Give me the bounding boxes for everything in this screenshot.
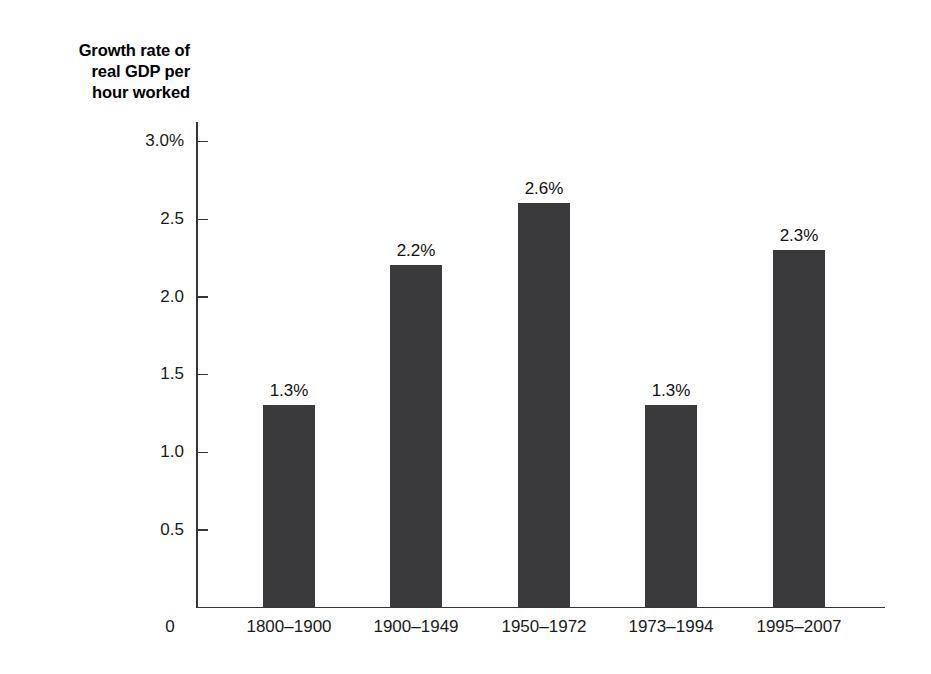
y-axis-title-line-2: real GDP per	[30, 61, 190, 82]
y-tick-label-2.0-wrap: 2.0	[34, 287, 184, 307]
bar-value-label-4: 1.3%	[619, 381, 723, 401]
y-tick-label-2.5-wrap: 2.5	[34, 209, 184, 229]
y-tick-label-1.5-wrap: 1.5	[34, 364, 184, 384]
bar-chart: Growth rate of real GDP per hour worked …	[0, 0, 931, 674]
y-tick-label-1.0-wrap: 1.0	[34, 442, 184, 462]
bar-value-label-1: 1.3%	[237, 381, 341, 401]
y-tick-label-2.0: 2.0	[34, 287, 184, 307]
bar-rect-2[interactable]	[390, 265, 442, 607]
y-axis-title-line-3: hour worked	[30, 82, 190, 103]
axis-origin-label: 0	[150, 617, 190, 637]
bar-value-label-5: 2.3%	[747, 226, 851, 246]
y-tick-label-0.5-wrap: 0.5	[34, 520, 184, 540]
bar-rect-3[interactable]	[518, 203, 570, 607]
plot-area: 1.3% 2.2% 2.6% 1.3% 2.3%	[196, 122, 885, 607]
bar-rect-5[interactable]	[773, 250, 825, 607]
y-tick-label-0.5: 0.5	[34, 520, 184, 540]
bar-value-label-2: 2.2%	[364, 241, 468, 261]
y-axis-title: Growth rate of real GDP per hour worked	[30, 40, 190, 103]
bar-value-label-3: 2.6%	[492, 179, 596, 199]
bar-rect-4[interactable]	[645, 405, 697, 607]
y-tick-label-3.0-wrap: 3.0%	[34, 131, 184, 151]
y-axis-title-line-1: Growth rate of	[30, 40, 190, 61]
y-tick-label-1.0: 1.0	[34, 442, 184, 462]
y-tick-label-2.5: 2.5	[34, 209, 184, 229]
y-tick-label-3.0: 3.0%	[34, 131, 184, 151]
y-tick-label-1.5: 1.5	[34, 364, 184, 384]
x-category-label-5: 1995–2007	[724, 617, 874, 637]
bar-rect-1[interactable]	[263, 405, 315, 607]
